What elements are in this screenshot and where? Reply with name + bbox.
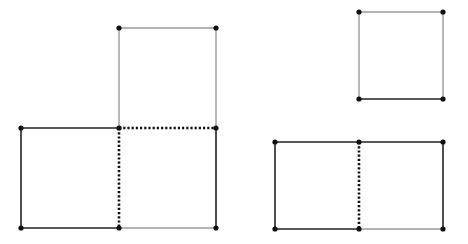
vertex-dot (272, 139, 277, 144)
vertex-dot (116, 25, 121, 30)
vertex-dot (440, 226, 445, 231)
two-squares-rectangle (272, 139, 445, 231)
vertex-dot (272, 226, 277, 231)
vertex-dot (440, 96, 445, 101)
vertex-dot (213, 125, 218, 130)
vertex-dot (356, 9, 361, 14)
vertex-dot (213, 25, 218, 30)
vertex-dot (440, 9, 445, 14)
vertex-dot (18, 225, 23, 230)
vertex-dot (116, 125, 121, 130)
diagram-canvas (0, 0, 468, 244)
vertex-dot (356, 96, 361, 101)
vertex-dot (356, 139, 361, 144)
vertex-dot (116, 225, 121, 230)
vertex-dot (18, 125, 23, 130)
vertex-dot (356, 226, 361, 231)
single-square (356, 9, 445, 101)
vertex-dot (213, 225, 218, 230)
vertex-dot (440, 139, 445, 144)
l-shape-three-squares (18, 25, 218, 230)
